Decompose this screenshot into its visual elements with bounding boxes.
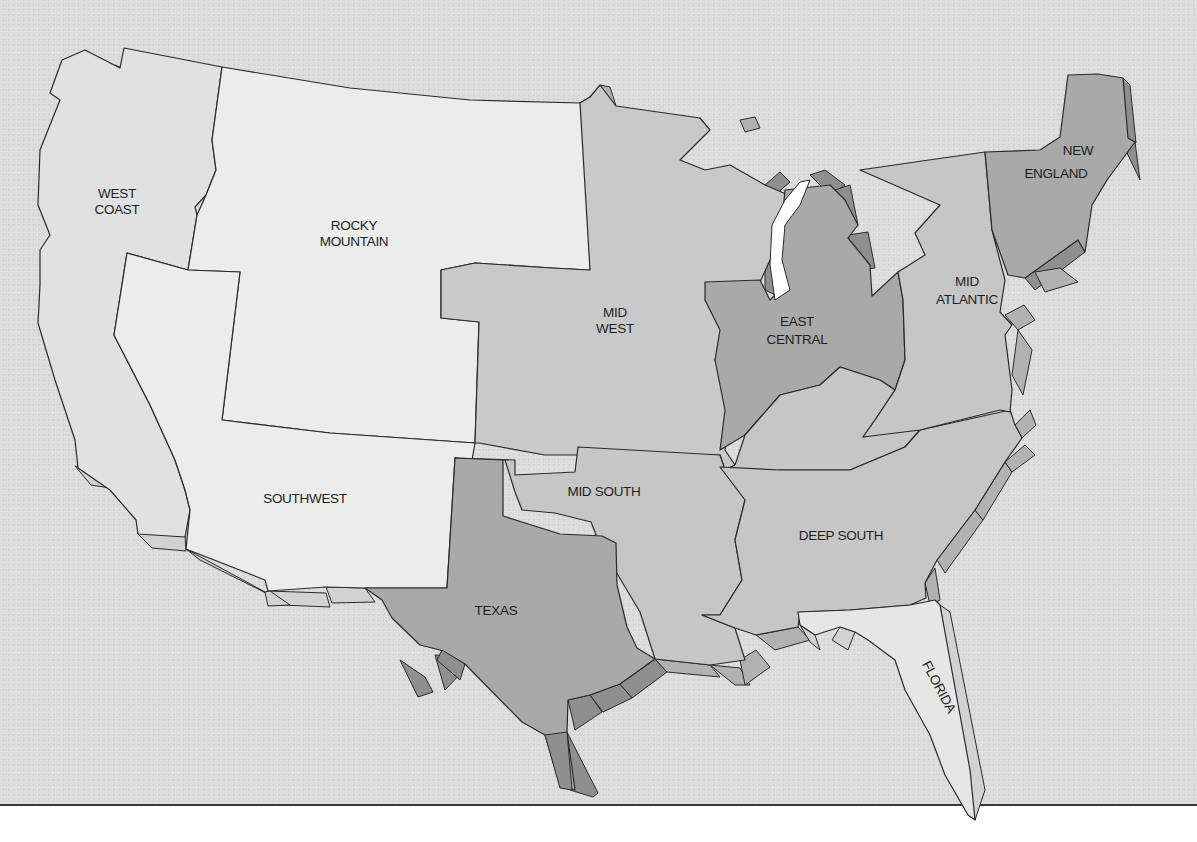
- label-southwest: SOUTHWEST: [263, 491, 347, 506]
- label-new-england-2: ENGLAND: [1024, 166, 1088, 181]
- label-rocky-mountain-1: ROCKY: [331, 218, 378, 233]
- us-regions-map: WEST COAST ROCKY MOUNTAIN SOUTHWEST MID …: [0, 0, 1197, 842]
- label-mid-atlantic-1: MID: [955, 274, 979, 289]
- label-west-coast-1: WEST: [98, 186, 136, 201]
- label-mid-west-2: WEST: [596, 321, 634, 336]
- label-new-england-1: NEW: [1063, 143, 1094, 158]
- label-east-central-1: EAST: [780, 314, 814, 329]
- label-east-central-2: CENTRAL: [767, 332, 829, 347]
- label-texas: TEXAS: [475, 603, 518, 618]
- label-rocky-mountain-2: MOUNTAIN: [320, 234, 389, 249]
- label-mid-south: MID SOUTH: [567, 484, 640, 499]
- label-mid-atlantic-2: ATLANTIC: [936, 292, 998, 307]
- label-west-coast-2: COAST: [94, 202, 139, 217]
- label-deep-south: DEEP SOUTH: [799, 528, 884, 543]
- label-mid-west-1: MID: [603, 305, 627, 320]
